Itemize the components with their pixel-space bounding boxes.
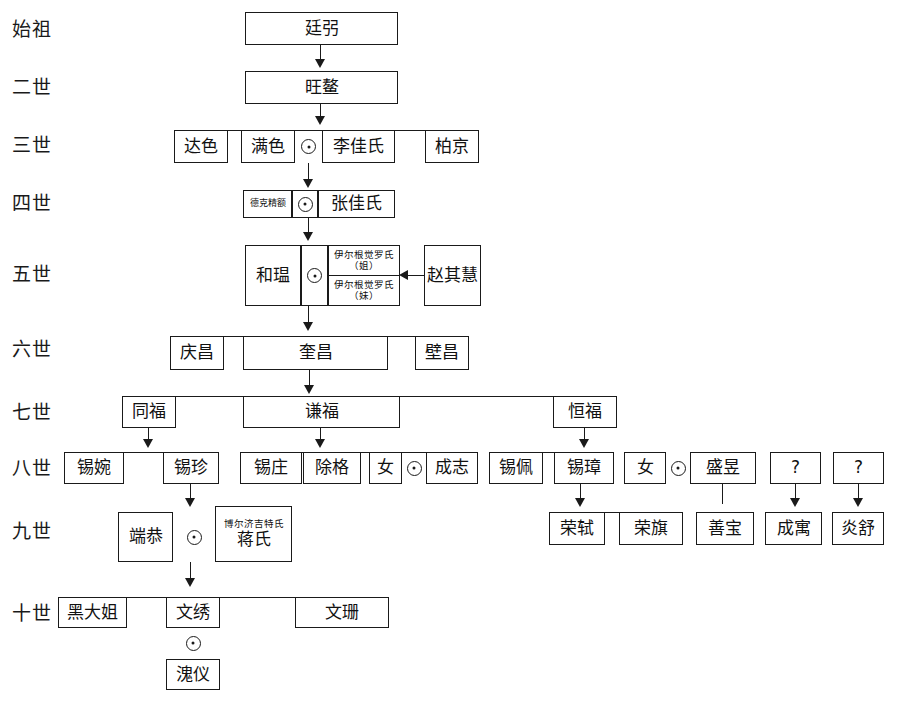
person-node-zhaoqihui[interactable]: 赵其慧	[424, 245, 481, 306]
generation-label-9: 九世	[12, 522, 52, 541]
generation-label-5: 五世	[12, 265, 52, 284]
person-node-lijiashi[interactable]: 李佳氏	[322, 130, 395, 163]
person-node-bichang[interactable]: 壁昌	[415, 336, 469, 370]
arrow-down-g4-g5	[303, 232, 313, 241]
marriage-circle-icon	[187, 530, 202, 545]
generation-label-3: 三世	[12, 136, 52, 155]
generation-label-1: 始祖	[12, 20, 52, 39]
arrow-down-qianfu-g8	[315, 439, 325, 448]
person-node-borjigit-jiangshi[interactable]: 博尔济吉特氏 蒋氏	[215, 506, 292, 562]
generation-label-8: 八世	[12, 459, 52, 478]
person-node-wangao[interactable]: 旺鳌	[245, 71, 398, 104]
arrow-left-zhaoqihui	[399, 270, 408, 280]
person-node-tingyi[interactable]: 廷弜	[245, 12, 398, 45]
person-node-shanbao[interactable]: 善宝	[696, 512, 754, 545]
marriage-circle-icon	[307, 268, 322, 283]
arrow-down-hengfu-g8	[579, 439, 589, 448]
person-node-xizhang[interactable]: 锡璋	[554, 452, 614, 484]
generation-label-7: 七世	[12, 403, 52, 422]
person-node-xipei[interactable]: 锡佩	[489, 452, 543, 484]
person-node-dekejinge[interactable]: 德克精额	[243, 190, 292, 218]
person-node-puyi[interactable]: 溾仪	[166, 659, 220, 690]
person-node-wenshan[interactable]: 文珊	[295, 597, 389, 628]
arrow-down-unknown2-g9	[853, 498, 863, 507]
connector-shengyu-g9	[722, 484, 723, 504]
person-node-xiwan[interactable]: 锡婉	[64, 452, 124, 484]
marriage-circle-icon	[186, 636, 201, 651]
spouse-pair-irgen-gioro[interactable]: 伊尔根觉罗氏（姐） 伊尔根觉罗氏（妹）	[328, 245, 400, 306]
generation-label-6: 六世	[12, 340, 52, 359]
arrow-down-g9-g10	[185, 578, 195, 587]
arrow-down-unknown1-g9	[790, 498, 800, 507]
person-node-tongfu[interactable]: 同福	[122, 396, 176, 428]
marriage-circle-icon	[301, 139, 316, 154]
marriage-symbol-g9	[173, 512, 215, 562]
marriage-circle-icon	[298, 197, 313, 212]
arrow-down-g2-g3	[315, 116, 325, 125]
arrow-down-g6-g7	[304, 385, 314, 394]
person-node-nv-shengyu[interactable]: 女	[624, 452, 666, 484]
marriage-symbol-g8-shengyu	[666, 452, 690, 484]
person-node-xizhen[interactable]: 锡珍	[163, 452, 219, 484]
marriage-symbol-g10	[179, 632, 207, 654]
person-node-heying[interactable]: 和瑥	[245, 245, 301, 306]
person-node-qingchang[interactable]: 庆昌	[170, 336, 224, 370]
person-node-irgen-gioro-younger[interactable]: 伊尔根觉罗氏（妹）	[329, 275, 399, 305]
generation-label-4: 四世	[12, 194, 52, 213]
arrow-down-g3-g4	[303, 179, 313, 188]
person-node-irgen-gioro-elder[interactable]: 伊尔根觉罗氏（姐）	[329, 246, 399, 275]
marriage-symbol-g8-chengzhi	[402, 452, 426, 484]
marriage-symbol-g3	[295, 130, 322, 163]
person-node-unknown-1[interactable]: ?	[770, 452, 821, 484]
person-node-zhangjiashi[interactable]: 张佳氏	[318, 190, 395, 218]
generation-label-2: 二世	[12, 78, 52, 97]
arrow-down-tongfu-g8	[143, 439, 153, 448]
person-node-nv-chengzhi[interactable]: 女	[369, 452, 402, 484]
person-node-hengfu[interactable]: 恒福	[553, 396, 617, 428]
person-node-wenxiu[interactable]: 文绣	[166, 597, 220, 628]
marriage-symbol-g4	[292, 190, 318, 218]
marriage-symbol-g5	[301, 245, 328, 306]
person-node-bojing[interactable]: 柏京	[425, 130, 479, 163]
person-node-duangong[interactable]: 端恭	[118, 512, 173, 562]
arrow-down-g5-g6	[303, 322, 313, 331]
arrow-down-xizhang-g9	[575, 498, 585, 507]
generation-label-10: 十世	[12, 604, 52, 623]
person-node-rongqi[interactable]: 荣旗	[619, 512, 683, 545]
marriage-circle-icon	[671, 461, 686, 476]
person-node-yanshu[interactable]: 炎舒	[832, 512, 884, 545]
person-node-chengyu[interactable]: 成寓	[765, 512, 822, 545]
person-name-jiangshi: 蒋氏	[237, 530, 271, 550]
person-node-rongshi[interactable]: 荣轼	[549, 512, 605, 545]
marriage-circle-icon	[407, 461, 422, 476]
person-node-kuichang[interactable]: 奎昌	[243, 336, 388, 370]
arrow-down-g1-g2	[315, 59, 325, 68]
person-node-xizhuang[interactable]: 锡庄	[240, 452, 302, 484]
person-node-shengyu[interactable]: 盛昱	[690, 452, 756, 484]
person-node-manse[interactable]: 满色	[241, 130, 295, 163]
arrow-down-xizhen-g9	[185, 498, 195, 507]
person-node-dase[interactable]: 达色	[174, 130, 228, 163]
person-node-chuge[interactable]: 除格	[303, 452, 361, 484]
person-node-chengzhi[interactable]: 成志	[426, 452, 478, 484]
person-node-heidajie[interactable]: 黑大姐	[58, 597, 127, 628]
person-node-unknown-2[interactable]: ?	[833, 452, 884, 484]
genealogy-chart: 始祖 二世 三世 四世 五世 六世 七世 八世 九世 十世 廷弜 旺鳌 达色 满…	[0, 0, 897, 705]
person-node-qianfu[interactable]: 谦福	[243, 396, 400, 428]
